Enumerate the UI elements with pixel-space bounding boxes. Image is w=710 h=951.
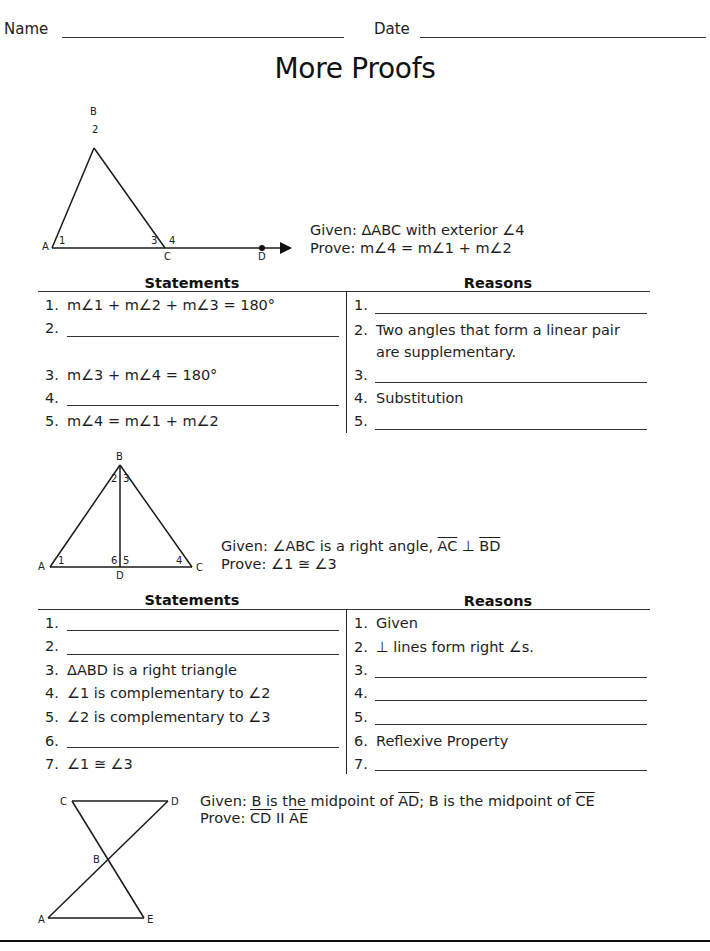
triangle-exterior-angle-diagram: B 2 A 1 3 4 C D	[30, 98, 310, 268]
svg-text:C: C	[60, 796, 67, 807]
statement-blank[interactable]	[67, 405, 339, 406]
statement-row: 4.	[45, 389, 67, 407]
reason-blank[interactable]	[375, 429, 647, 430]
reason-row: 6.Reflexive Property	[354, 732, 508, 750]
reason-blank[interactable]	[375, 677, 647, 678]
reason-blank[interactable]	[375, 724, 647, 725]
reason-row: 7.	[354, 755, 376, 773]
date-field[interactable]	[420, 37, 706, 38]
svg-text:B: B	[116, 451, 123, 462]
reason-row-continued: are supplementary.	[376, 343, 516, 361]
svg-text:A: A	[42, 241, 49, 252]
name-label: Name	[4, 20, 48, 38]
column-divider	[346, 609, 347, 774]
reason-row: 5.	[354, 412, 376, 430]
given-statement: Given: ∠ABC is a right angle, AC ⊥ BD	[221, 537, 500, 555]
svg-text:C: C	[164, 251, 171, 262]
svg-text:4: 4	[176, 555, 182, 566]
reason-blank[interactable]	[375, 382, 647, 383]
table-header-rule	[38, 609, 650, 610]
reason-row: 4.	[354, 684, 376, 702]
svg-text:E: E	[147, 914, 153, 925]
table-header-rule	[38, 291, 650, 292]
reason-row: 2.⊥ lines form right ∠s.	[354, 638, 534, 656]
reason-row: 1.	[354, 296, 376, 314]
svg-text:A: A	[38, 914, 45, 925]
svg-text:2: 2	[92, 124, 98, 135]
column-divider	[346, 291, 347, 433]
reason-blank[interactable]	[375, 313, 647, 314]
statement-row: 1.	[45, 614, 67, 632]
svg-text:6: 6	[111, 555, 117, 566]
reasons-header: Reasons	[346, 592, 650, 610]
page-bottom-rule	[0, 940, 710, 942]
reasons-header: Reasons	[346, 274, 650, 292]
statement-row: 5.m∠4 = m∠1 + m∠2	[45, 412, 219, 430]
statement-row: 2.	[45, 319, 67, 337]
prove-statement: Prove: ∠1 ≅ ∠3	[221, 555, 337, 573]
point-b: B	[90, 106, 97, 117]
svg-text:2: 2	[111, 473, 117, 484]
svg-text:D: D	[116, 570, 124, 581]
statement-blank[interactable]	[67, 336, 339, 337]
statement-row: 3.m∠3 + m∠4 = 180°	[45, 366, 217, 384]
reason-row: 5.	[354, 708, 376, 726]
reason-row: 3.	[354, 366, 376, 384]
svg-text:C: C	[196, 562, 203, 573]
statement-blank[interactable]	[67, 654, 339, 655]
given-statement: Given: B is the midpoint of AD; B is the…	[200, 792, 595, 810]
svg-text:3: 3	[123, 473, 129, 484]
statement-row: 3.ΔABD is a right triangle	[45, 661, 237, 679]
given-statement: Given: ΔABC with exterior ∠4	[310, 221, 525, 239]
svg-text:D: D	[258, 251, 266, 262]
prove-statement: Prove: CD II AE	[200, 809, 308, 827]
svg-text:3: 3	[151, 235, 157, 246]
prove-statement: Prove: m∠4 = m∠1 + m∠2	[310, 239, 512, 257]
statements-header: Statements	[38, 591, 346, 609]
name-field[interactable]	[62, 37, 344, 38]
reason-blank[interactable]	[375, 700, 647, 701]
page-title: More Proofs	[0, 52, 710, 85]
right-triangle-altitude-diagram: B 2 3 A 1 6 5 4 C D	[30, 447, 210, 582]
svg-text:A: A	[38, 561, 45, 572]
statement-blank[interactable]	[67, 747, 339, 748]
reason-row: 1.Given	[354, 614, 418, 632]
statement-row: 5.∠2 is complementary to ∠3	[45, 708, 271, 726]
statement-row: 7.∠1 ≅ ∠3	[45, 755, 133, 773]
date-label: Date	[374, 20, 410, 38]
svg-text:1: 1	[58, 555, 64, 566]
svg-text:1: 1	[59, 235, 65, 246]
svg-text:5: 5	[123, 555, 129, 566]
reason-blank[interactable]	[375, 770, 647, 771]
bowtie-midpoint-diagram: C D B A E	[30, 790, 200, 930]
statement-row: 4.∠1 is complementary to ∠2	[45, 684, 271, 702]
svg-text:D: D	[171, 796, 179, 807]
reason-row: 2.Two angles that form a linear pair	[354, 321, 620, 339]
statement-row: 1.m∠1 + m∠2 + m∠3 = 180°	[45, 296, 275, 314]
statement-row: 2.	[45, 637, 67, 655]
statement-blank[interactable]	[67, 630, 339, 631]
svg-text:B: B	[93, 854, 100, 865]
svg-text:4: 4	[169, 235, 175, 246]
statement-row: 6.	[45, 732, 67, 750]
reason-row: 4.Substitution	[354, 389, 464, 407]
reason-row: 3.	[354, 661, 376, 679]
statements-header: Statements	[38, 274, 346, 292]
